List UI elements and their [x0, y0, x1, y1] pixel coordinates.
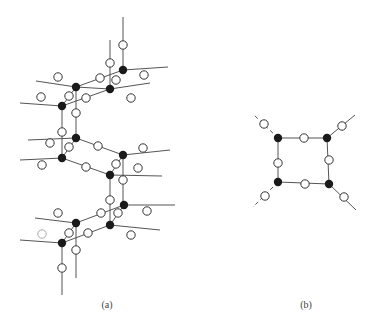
metal-node-icon: [58, 102, 66, 110]
linker-node-icon: [82, 94, 90, 102]
linker-node-icon: [338, 122, 346, 130]
linker-node-icon: [106, 196, 114, 204]
bond-line: [36, 81, 76, 87]
bond-line: [35, 218, 76, 223]
linker-node-icon: [46, 139, 54, 147]
linker-node-icon: [112, 76, 120, 84]
linker-node-icon: [134, 164, 142, 172]
linker-node-icon: [106, 59, 114, 67]
bond-line: [110, 225, 160, 230]
bond-line: [20, 240, 62, 243]
metal-node-icon: [274, 134, 282, 142]
linker-node-icon: [38, 161, 46, 169]
linker-node-icon: [274, 159, 282, 167]
panel-a-label: (a): [101, 299, 112, 310]
linker-node-icon: [97, 209, 105, 217]
faint-linker-node-icon: [38, 230, 46, 238]
linker-node-icon: [143, 207, 151, 215]
bond-line: [20, 103, 62, 106]
linker-node-icon: [84, 229, 92, 237]
bond-line: [123, 67, 168, 70]
linker-node-icon: [301, 180, 309, 188]
linker-node-icon: [119, 41, 127, 49]
linker-node-icon: [54, 73, 62, 81]
metal-node-icon: [72, 134, 80, 142]
metal-node-icon: [58, 154, 66, 162]
bond-line: [110, 175, 162, 176]
linker-node-icon: [37, 93, 45, 101]
metal-node-icon: [119, 151, 127, 159]
linker-node-icon: [94, 142, 102, 150]
linker-node-icon: [325, 156, 333, 164]
metal-node-icon: [274, 178, 282, 186]
linker-node-icon: [58, 264, 66, 272]
panel-b-square-unit: [253, 114, 356, 210]
linker-node-icon: [261, 192, 269, 200]
coordination-network-figure: [0, 0, 370, 327]
panel-b-label: (b): [300, 299, 312, 310]
linker-node-icon: [127, 94, 135, 102]
metal-node-icon: [325, 180, 333, 188]
panel-a-3d-network: [20, 17, 175, 295]
metal-node-icon: [72, 83, 80, 91]
linker-node-icon: [140, 71, 148, 79]
metal-node-icon: [106, 221, 114, 229]
linker-node-icon: [54, 209, 62, 217]
linker-node-icon: [72, 246, 80, 254]
metal-node-icon: [106, 171, 114, 179]
linker-node-icon: [139, 144, 147, 152]
bond-line: [20, 158, 62, 160]
linker-node-icon: [72, 109, 80, 117]
linker-node-icon: [114, 209, 122, 217]
linker-node-icon: [340, 193, 348, 201]
linker-node-icon: [96, 74, 104, 82]
linker-node-icon: [119, 176, 127, 184]
metal-node-icon: [106, 85, 114, 93]
metal-node-icon: [119, 66, 127, 74]
metal-node-icon: [120, 201, 128, 209]
linker-node-icon: [58, 128, 66, 136]
linker-node-icon: [65, 143, 73, 151]
linker-node-icon: [82, 163, 90, 171]
linker-node-icon: [65, 229, 73, 237]
metal-node-icon: [72, 219, 80, 227]
linker-node-icon: [127, 231, 135, 239]
bond-line: [76, 87, 110, 89]
linker-node-icon: [112, 160, 120, 168]
linker-node-icon: [65, 92, 73, 100]
metal-node-icon: [323, 134, 331, 142]
linker-node-icon: [260, 120, 268, 128]
metal-node-icon: [58, 239, 66, 247]
linker-node-icon: [300, 134, 308, 142]
